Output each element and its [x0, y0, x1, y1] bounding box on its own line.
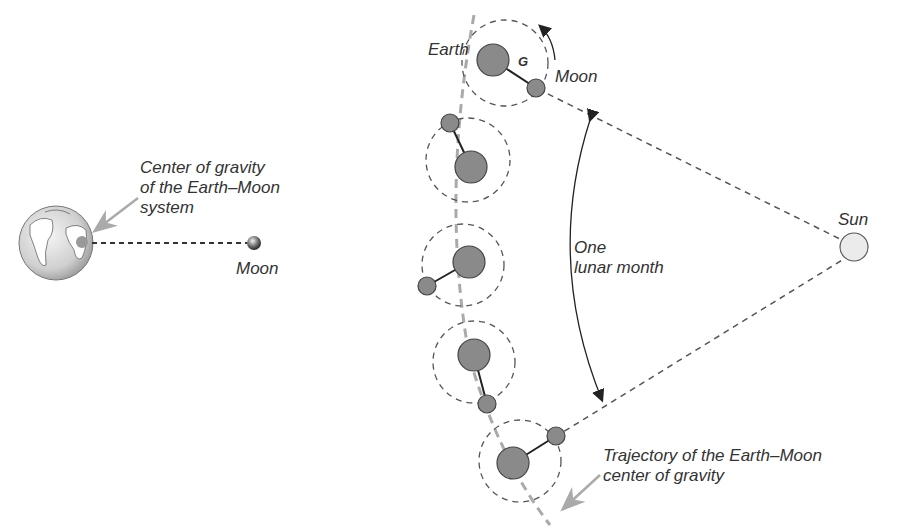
sun — [840, 233, 868, 261]
orbit-position-4 — [433, 321, 515, 413]
trajectory-pointer-arrow — [564, 475, 600, 508]
cog-label-line-2: of the Earth–Moon — [140, 178, 280, 198]
center-of-gravity-dot — [76, 236, 88, 248]
sun-label: Sun — [838, 210, 868, 230]
left-earth-globe — [19, 206, 93, 280]
trajectory-label: Trajectory of the Earth–Moon center of g… — [603, 446, 822, 486]
earth-label: Earth — [428, 40, 469, 60]
trajectory-label-line-1: Trajectory of the Earth–Moon — [603, 446, 822, 466]
sun-line-top — [538, 89, 852, 245]
cog-pointer-arrow — [96, 198, 138, 230]
lunar-month-line-2: lunar month — [574, 258, 664, 278]
orbit-position-2 — [426, 114, 510, 202]
right-moon-label: Moon — [555, 67, 598, 87]
rotation-arrow — [540, 26, 555, 60]
cog-label: Center of gravity of the Earth–Moon syst… — [140, 158, 280, 218]
lunar-month-line-1: One — [574, 238, 664, 258]
orbit-position-1 — [462, 20, 555, 106]
cog-label-line-3: system — [140, 198, 280, 218]
orbit-position-3 — [418, 224, 504, 306]
orbit-position-5 — [479, 420, 565, 502]
cog-label-line-1: Center of gravity — [140, 158, 280, 178]
left-moon-label: Moon — [236, 259, 279, 279]
left-moon — [247, 236, 261, 250]
sun-line-bottom — [555, 254, 852, 437]
lunar-month-label: One lunar month — [574, 238, 664, 278]
trajectory-label-line-2: center of gravity — [603, 466, 822, 486]
g-label: G — [518, 52, 528, 72]
